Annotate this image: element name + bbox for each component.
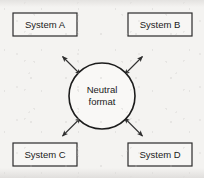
- hub-label-line-2: format: [89, 96, 116, 107]
- connector-system-a[interactable]: [63, 57, 81, 75]
- system-a-label: System A: [25, 19, 66, 30]
- system-b-label: System B: [140, 19, 181, 30]
- hub-label-line-1: Neutral: [87, 84, 118, 95]
- diagram-svg: Neutral format System A System B System …: [0, 0, 204, 178]
- neutral-format-hub[interactable]: Neutral format: [69, 63, 135, 129]
- node-system-b[interactable]: System B: [128, 13, 192, 36]
- connector-system-d[interactable]: [125, 118, 143, 136]
- node-system-d[interactable]: System D: [128, 143, 192, 166]
- system-c-label: System C: [24, 149, 65, 160]
- node-system-c[interactable]: System C: [13, 143, 77, 166]
- diagram-canvas: Neutral format System A System B System …: [0, 0, 204, 178]
- connector-system-b[interactable]: [125, 57, 143, 75]
- system-d-label: System D: [139, 149, 180, 160]
- node-system-a[interactable]: System A: [13, 13, 77, 36]
- connector-system-c[interactable]: [63, 118, 81, 136]
